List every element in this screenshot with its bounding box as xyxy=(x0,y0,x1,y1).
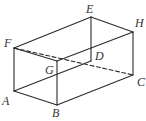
edge-eh xyxy=(91,17,133,32)
vertex-label-d: D xyxy=(95,50,104,62)
vertex-label-c: C xyxy=(137,76,145,88)
prism-diagram: A B C D E F G H xyxy=(0,0,146,121)
prism-edges xyxy=(0,0,146,121)
vertex-label-h: H xyxy=(135,17,144,29)
hidden-edge-fc xyxy=(14,48,133,75)
edge-ab xyxy=(14,91,57,105)
vertex-label-b: B xyxy=(52,107,59,119)
vertex-label-a: A xyxy=(2,95,9,107)
vertex-label-f: F xyxy=(4,37,11,49)
vertex-label-g: G xyxy=(45,64,54,76)
vertex-label-e: E xyxy=(86,3,93,15)
edge-fe xyxy=(14,17,91,48)
edge-bc xyxy=(57,75,133,105)
